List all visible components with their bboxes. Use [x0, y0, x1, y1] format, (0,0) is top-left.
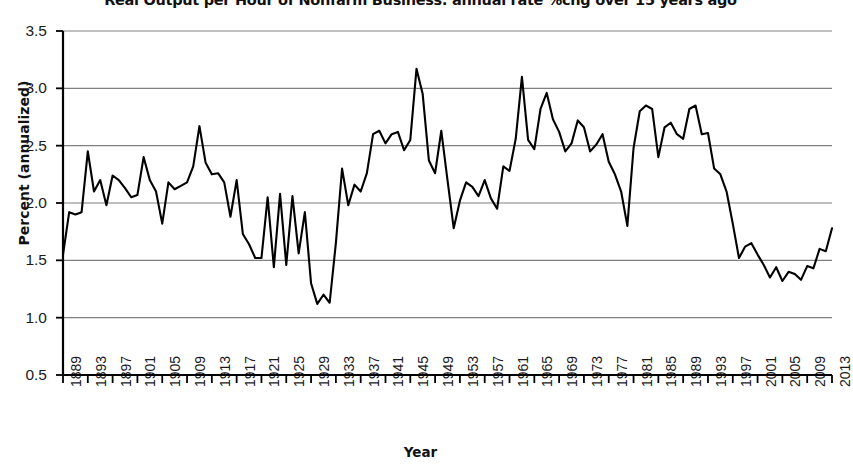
- x-axis-ticks: [63, 375, 832, 383]
- data-line: [63, 69, 832, 304]
- data-series-group: [63, 69, 832, 304]
